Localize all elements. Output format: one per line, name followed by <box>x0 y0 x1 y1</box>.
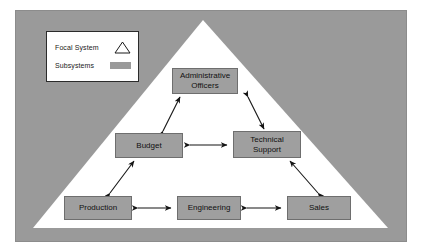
node-label: Production <box>79 203 117 213</box>
node-label: Budget <box>136 141 161 151</box>
node-label: Administrative Officers <box>180 71 230 91</box>
node-budget[interactable]: Budget <box>115 133 183 158</box>
node-label: Technical Support <box>250 135 283 155</box>
arrow-budget-admin <box>163 97 180 131</box>
node-label: Sales <box>309 203 329 213</box>
node-label: Engineering <box>188 203 231 213</box>
arrow-production-budget <box>110 161 134 193</box>
diagram-canvas: Focal System Subsystems Ad <box>0 0 421 250</box>
arrow-admin-tech <box>248 97 264 129</box>
node-engineering[interactable]: Engineering <box>177 196 241 220</box>
node-administrative-officers[interactable]: Administrative Officers <box>172 68 238 94</box>
node-production[interactable]: Production <box>64 196 132 220</box>
node-sales[interactable]: Sales <box>287 196 351 220</box>
arrow-sales-tech <box>290 161 318 193</box>
node-technical-support[interactable]: Technical Support <box>233 131 301 158</box>
